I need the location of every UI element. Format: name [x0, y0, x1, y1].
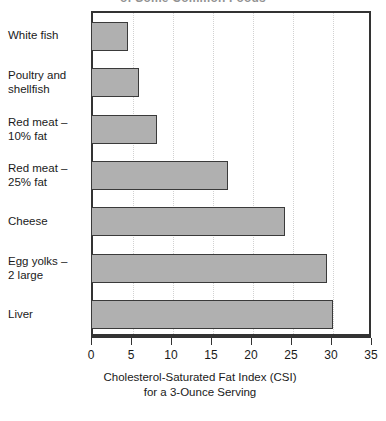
- x-tick-label-15: 15: [191, 348, 231, 362]
- bar: [91, 115, 157, 144]
- bars-layer: [91, 11, 371, 336]
- category-label-line: Red meat –: [8, 162, 88, 176]
- category-label-line: 25% fat: [8, 176, 88, 190]
- category-label-line: 2 large: [8, 269, 88, 283]
- bar: [91, 300, 333, 329]
- category-label-line: Liver: [8, 308, 88, 322]
- category-label-line: shellfish: [8, 83, 88, 97]
- category-label-line: White fish: [8, 29, 88, 43]
- x-tick-5: [131, 338, 132, 345]
- x-axis-title: Cholesterol-Saturated Fat Index (CSI) fo…: [40, 370, 360, 400]
- category-label: Cheese: [8, 215, 88, 229]
- category-label: Red meat –25% fat: [8, 162, 88, 189]
- category-label: White fish: [8, 29, 88, 43]
- bar: [91, 161, 228, 190]
- x-tick-0: [91, 338, 92, 345]
- x-tick-20: [251, 338, 252, 345]
- x-tick-label-0: 0: [71, 348, 111, 362]
- x-tick-10: [171, 338, 172, 345]
- bar: [91, 68, 139, 97]
- x-tick-25: [291, 338, 292, 345]
- x-axis-line: [91, 336, 371, 338]
- x-tick-label-25: 25: [271, 348, 311, 362]
- chart-title: of Some Common Foods: [0, 0, 386, 5]
- category-label-line: Poultry and: [8, 69, 88, 83]
- category-label-line: Egg yolks –: [8, 255, 88, 269]
- bar: [91, 22, 128, 51]
- bar: [91, 207, 285, 236]
- x-tick-30: [331, 338, 332, 345]
- x-tick-label-10: 10: [151, 348, 191, 362]
- x-tick-label-35: 35: [351, 348, 386, 362]
- category-label: Red meat –10% fat: [8, 116, 88, 143]
- category-label: Poultry andshellfish: [8, 69, 88, 96]
- category-axis-labels: White fishPoultry andshellfishRed meat –…: [0, 11, 86, 336]
- category-label-line: Cheese: [8, 215, 88, 229]
- x-axis-title-line2: for a 3-Ounce Serving: [40, 385, 360, 400]
- category-label: Egg yolks –2 large: [8, 255, 88, 282]
- x-tick-35: [371, 338, 372, 345]
- x-axis-title-line1: Cholesterol-Saturated Fat Index (CSI): [40, 370, 360, 385]
- x-tick-label-5: 5: [111, 348, 151, 362]
- category-label-line: Red meat –: [8, 116, 88, 130]
- category-label-line: 10% fat: [8, 130, 88, 144]
- x-tick-label-20: 20: [231, 348, 271, 362]
- x-tick-label-30: 30: [311, 348, 351, 362]
- bar: [91, 254, 327, 283]
- x-tick-15: [211, 338, 212, 345]
- category-label: Liver: [8, 308, 88, 322]
